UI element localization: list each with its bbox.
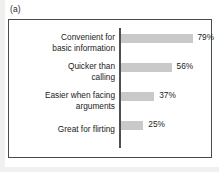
category-label-line-2: basic information <box>13 43 115 54</box>
bar <box>121 92 155 101</box>
bar-value-label: 56% <box>177 61 194 72</box>
category-label-line-1: Quicker than <box>68 61 115 71</box>
chart-frame: Convenient for basic information 79% Qui… <box>8 19 212 158</box>
category-label: Great for flirting <box>13 124 115 135</box>
bar-chart-row: Quicker than calling 56% <box>9 58 211 87</box>
bar <box>121 63 172 72</box>
category-label: Convenient for basic information <box>13 32 115 53</box>
bar <box>121 121 144 130</box>
bar-chart-row: Easier when facing arguments 37% <box>9 87 211 116</box>
page-edge-shadow-bottom <box>0 167 219 172</box>
bar-value-label: 25% <box>148 119 165 130</box>
bar-chart-row: Convenient for basic information 79% <box>9 29 211 58</box>
category-label-line-1: Great for flirting <box>58 124 115 134</box>
bar-value-label: 79% <box>198 32 215 43</box>
panel-label: (a) <box>10 4 21 15</box>
bar-chart-plot-area: Convenient for basic information 79% Qui… <box>9 20 211 157</box>
bar-value-label: 37% <box>159 90 176 101</box>
category-label-line-1: Easier when facing <box>45 90 115 100</box>
bar <box>121 34 193 43</box>
figure-page: (a) Convenient for basic information 79%… <box>0 0 219 172</box>
category-label-line-1: Convenient for <box>61 32 115 42</box>
category-label-line-2: arguments <box>13 101 115 112</box>
category-label: Easier when facing arguments <box>13 90 115 111</box>
category-label: Quicker than calling <box>13 61 115 82</box>
category-label-line-2: calling <box>13 72 115 83</box>
page-edge-shadow-left <box>0 0 5 172</box>
bar-chart-row: Great for flirting 25% <box>9 116 211 145</box>
